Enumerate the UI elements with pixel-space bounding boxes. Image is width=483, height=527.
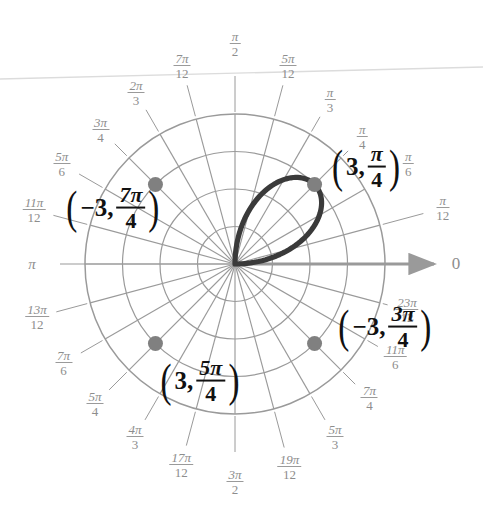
scan-artifact-line: [0, 67, 483, 79]
annotation-close-paren: ): [149, 194, 160, 223]
tick-label-pi-over-2: π2: [230, 30, 241, 58]
leader-7pi-over-4: [343, 372, 355, 384]
annotation-angle-fraction: 7π4: [116, 184, 145, 233]
tick-label-pi-over-6: π6: [403, 150, 414, 178]
marked-point-3: [307, 336, 322, 351]
tick-label-13pi-over-12: 13π12: [25, 303, 49, 331]
annotation-point-3-pi-over-4: (3,π4): [330, 143, 402, 192]
leader-19pi-over-12: [275, 412, 285, 448]
annotation-angle-fraction: 5π4: [196, 357, 225, 406]
leader-7pi-over-12: [187, 85, 195, 116]
annotation-open-paren: (: [332, 153, 343, 182]
tick-label-7pi-over-12: 7π12: [173, 52, 190, 80]
annotation-open-paren: (: [160, 367, 171, 396]
leader-pi-over-3: [312, 117, 321, 132]
leader-5pi-over-12: [275, 85, 283, 116]
grid-spoke-345: [235, 264, 380, 303]
annotation-close-paren: ): [389, 153, 400, 182]
tick-label-5pi-over-3: 5π3: [326, 423, 343, 451]
annotation-radius: 3,: [174, 367, 196, 395]
annotation-point-neg3-7pi-over-4: (−3,7π4): [64, 184, 162, 233]
tick-label-3pi-over-2: 3π2: [226, 468, 243, 496]
marked-point-0: [307, 177, 322, 192]
annotation-close-paren: ): [421, 313, 432, 342]
tick-label-19pi-over-12: 19π12: [278, 453, 302, 481]
grid-spoke-120: [160, 134, 235, 264]
leader-5pi-over-3: [312, 397, 326, 420]
annotation-point-neg3-3pi-over-4: (−3,3π4): [336, 303, 434, 352]
grid-spoke-300: [235, 264, 310, 394]
marked-point-2: [148, 336, 163, 351]
tick-label-7pi-over-4: 7π4: [361, 384, 378, 412]
annotation-open-paren: (: [338, 313, 349, 342]
leader-2pi-over-3: [146, 110, 159, 132]
annotation-radius: −3,: [79, 194, 115, 222]
tick-label-2pi-over-3: 2π3: [127, 79, 144, 107]
annotation-radius: 3,: [345, 153, 367, 181]
annotation-point-3-5pi-over-4: (3,5π4): [158, 357, 241, 406]
leader-7pi-over-6: [81, 341, 103, 354]
polar-figure: π12π6π4π35π12π27π122π33π45π611π1213π127π…: [0, 0, 483, 527]
tick-label-5pi-over-6: 5π6: [53, 150, 70, 178]
leader-4pi-over-3: [145, 397, 159, 420]
tick-label-pi-over-12: π12: [436, 194, 449, 222]
tick-label-11pi-over-12: 11π12: [23, 196, 46, 224]
annotation-angle-fraction: π4: [368, 143, 386, 192]
tick-label-pi: π: [28, 256, 36, 273]
tick-label-zero: 0: [452, 254, 461, 274]
grid-spoke-210: [105, 264, 235, 339]
leader-pi-over-12: [383, 214, 424, 225]
tick-label-4pi-over-3: 4π3: [126, 423, 143, 451]
annotation-angle-fraction: 3π4: [388, 303, 417, 352]
leader-3pi-over-4: [115, 144, 127, 156]
tick-label-5pi-over-4: 5π4: [86, 390, 103, 418]
grid-spoke-315: [235, 264, 341, 370]
annotation-close-paren: ): [229, 367, 240, 396]
tick-label-pi-over-3: π3: [325, 86, 336, 114]
grid-spoke-105: [196, 119, 235, 264]
tick-label-7pi-over-6: 7π6: [55, 349, 72, 377]
grid-spoke-195: [90, 264, 235, 303]
annotation-open-paren: (: [66, 194, 77, 223]
tick-label-3pi-over-4: 3π4: [92, 116, 109, 144]
leader-13pi-over-12: [56, 304, 87, 312]
leader-5pi-over-4: [109, 372, 127, 390]
annotation-radius: −3,: [351, 313, 387, 341]
tick-label-17pi-over-12: 17π12: [169, 451, 193, 479]
leader-17pi-over-12: [186, 412, 195, 446]
polar-graph-canvas: [0, 0, 483, 527]
tick-label-5pi-over-12: 5π12: [280, 52, 297, 80]
